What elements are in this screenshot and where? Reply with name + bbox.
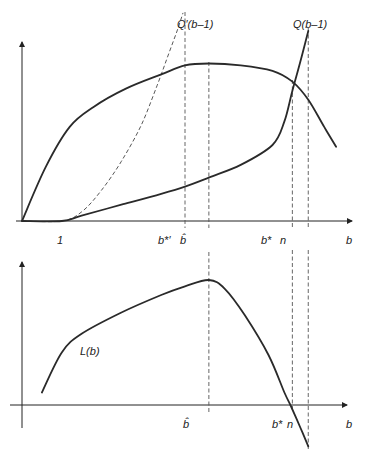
bottom-panel: L(b) b̂ b* n b [10, 250, 352, 450]
series-bottom-lb-0 [42, 280, 308, 446]
tick-label-n-bottom: n [287, 418, 293, 430]
label-l: L(b) [80, 345, 100, 357]
x-axis-label-b-bottom: b [346, 418, 352, 430]
tick-label-b-hat: b̂ [180, 233, 186, 246]
tick-label-b-star: b* [261, 234, 272, 246]
series-top-qb-0 [22, 13, 183, 222]
tick-label-1: 1 [57, 234, 63, 246]
x-axis-label-b: b [346, 234, 352, 246]
series-top-curve-2 [22, 64, 336, 222]
tick-label-b-star-prime: b*′ [158, 234, 171, 246]
label-q: Q(b–1) [293, 18, 328, 30]
tick-label-b-hat-bottom: b̂ [183, 417, 189, 430]
label-q-prime: Q′(b–1) [177, 18, 214, 30]
tick-label-b-star-bottom: b* [272, 418, 283, 430]
series-top-qb-1 [22, 31, 308, 222]
tick-label-n: n [280, 234, 286, 246]
figure: Q′(b–1) Q(b–1) 1 b*′ b̂ b* n b L(b) b̂ b… [0, 0, 369, 458]
top-panel: Q′(b–1) Q(b–1) 1 b*′ b̂ b* n b [16, 12, 352, 246]
